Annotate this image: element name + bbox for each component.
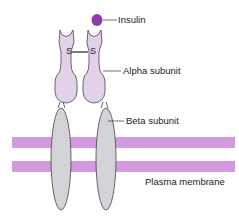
beta-subunit-left xyxy=(51,108,71,210)
alpha-subunit-label: Alpha subunit xyxy=(123,66,181,76)
insulin-molecule xyxy=(92,14,103,26)
insulin-receptor-diagram: S S Insulin Alpha subunit Beta subunit P… xyxy=(0,0,239,217)
insulin-label: Insulin xyxy=(118,15,145,25)
alpha-subunit-left xyxy=(55,30,77,103)
alpha-subunit-right xyxy=(83,30,105,103)
membrane-outer-leaflet xyxy=(12,137,235,148)
plasma-membrane-label: Plasma membrane xyxy=(145,177,225,187)
disulfide-left-label: S xyxy=(66,47,72,56)
beta-subunit-label: Beta subunit xyxy=(126,116,179,126)
alpha-beta-link-right xyxy=(101,102,108,108)
beta-subunit-right xyxy=(96,108,116,210)
membrane-inner-leaflet xyxy=(12,161,235,172)
disulfide-right-label: S xyxy=(90,47,96,56)
